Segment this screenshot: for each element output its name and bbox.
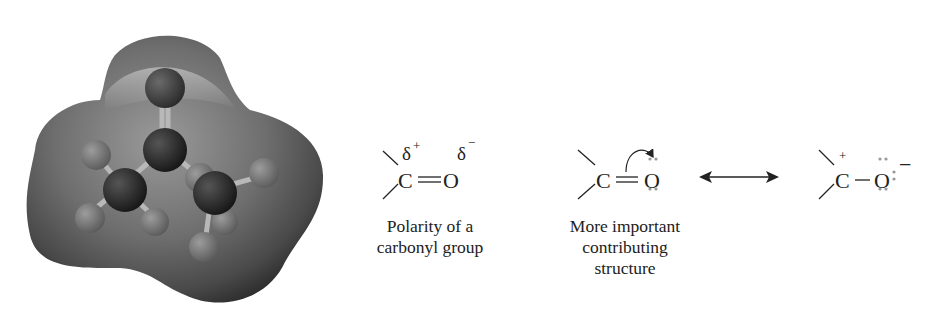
polarity-caption-line1: Polarity of a — [387, 216, 474, 236]
hydrogen-atom — [249, 158, 279, 188]
polarity-structure: C O δ + δ − Polarity of a carbonyl group — [377, 135, 484, 257]
polarity-caption-line2: carbonyl group — [377, 237, 484, 257]
delta-plus-sign: + — [413, 138, 420, 153]
contributing-structure-2: C + O − — [819, 148, 911, 199]
oxygen-symbol: O — [443, 168, 459, 193]
delta-minus-sign: − — [468, 135, 475, 150]
contributor-caption-line2: contributing — [582, 237, 668, 257]
carbon-symbol: C — [596, 168, 611, 193]
oxygen-negative-charge: − — [899, 152, 911, 177]
carbon-symbol: C — [835, 168, 850, 193]
resonance-arrow-icon — [699, 171, 779, 183]
contributor-caption-line1: More important — [570, 216, 680, 236]
carbon-atom — [193, 171, 237, 215]
contributor-caption-line3: structure — [594, 258, 655, 278]
hydrogen-atom — [75, 203, 105, 233]
delta-plus: δ — [402, 143, 411, 164]
carbon-positive-charge: + — [839, 148, 846, 163]
carbon-atom — [103, 168, 147, 212]
hydrogen-atom — [189, 232, 219, 262]
hydrogen-atom — [141, 208, 169, 236]
hydrogen-atom — [81, 140, 111, 170]
contributing-structure-1: C O More important contributing structur… — [570, 150, 680, 278]
electrostatic-potential-map — [27, 36, 323, 303]
carbon-atom — [143, 128, 187, 172]
oxygen-atom — [145, 68, 185, 108]
delta-minus: δ — [457, 143, 466, 164]
carbon-symbol: C — [398, 168, 413, 193]
